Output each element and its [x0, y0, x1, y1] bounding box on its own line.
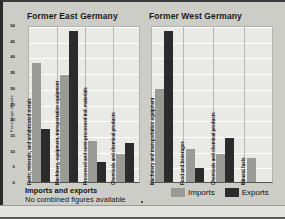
bar-imports	[247, 158, 256, 182]
bar-imports	[32, 63, 41, 182]
bar-imports	[88, 141, 97, 182]
bar-group	[32, 27, 50, 182]
chart-legend: Imports Exports	[171, 188, 269, 197]
x-axis-category-label: Chemicals and chemical products	[211, 112, 216, 185]
x-axis-category-label: Fuels, minerals, and unfabricated metals	[27, 98, 32, 185]
bar-group	[186, 27, 204, 182]
figure-caption: Imports and exports No combined figures …	[25, 186, 125, 204]
y-axis-tick-label: 5	[3, 165, 15, 169]
bar-group	[155, 27, 173, 182]
y-axis-tick-label: 30	[3, 87, 15, 91]
legend-label-exports: Exports	[242, 188, 269, 197]
y-axis-tick-label: 0	[3, 181, 15, 185]
bar-imports	[216, 154, 225, 182]
x-axis-category-label: Processed and semi-processed ind. materi…	[83, 87, 88, 185]
bar-group	[216, 27, 234, 182]
chart-figure: Former East Germany Former West Germany …	[0, 0, 285, 205]
bar-imports	[155, 89, 164, 182]
bar-exports	[195, 168, 204, 182]
bar-group	[88, 27, 106, 182]
bar-exports	[125, 143, 134, 182]
chart-title-east: Former East Germany	[27, 11, 118, 21]
legend-item-imports: Imports	[171, 188, 215, 197]
y-axis-tick-label: 10	[3, 150, 15, 154]
y-axis-tick-label: 15	[3, 134, 15, 138]
x-axis-category-label: Mineral fuels	[241, 158, 246, 185]
bar-group	[247, 27, 256, 182]
y-axis-tick-label: 25	[3, 103, 15, 107]
bar-group	[116, 27, 134, 182]
y-axis-tick-label: 20	[3, 118, 15, 122]
y-axis-tick-label: 45	[3, 40, 15, 44]
x-axis-category-label: Food and beverages	[180, 141, 185, 185]
plot-area-east: Fuels, minerals, and unfabricated metals…	[28, 26, 140, 183]
legend-label-imports: Imports	[188, 188, 215, 197]
bar-exports	[97, 162, 106, 182]
bar-exports	[69, 31, 78, 182]
x-axis-category-label: Machinery and transportation equipment	[150, 98, 155, 185]
bar-group	[60, 27, 78, 182]
bar-imports	[60, 75, 69, 182]
legend-item-exports: Exports	[225, 188, 269, 197]
bar-exports	[225, 138, 234, 182]
bottom-strip	[0, 205, 285, 219]
plot-area-west: Machinery and transportation equipmentFo…	[151, 26, 273, 183]
x-axis-category-label: Chemicals and chemical products	[111, 112, 116, 185]
bar-exports	[41, 129, 50, 182]
bar-exports	[164, 31, 173, 182]
y-axis-title: Percentage of trade	[9, 95, 14, 132]
caption-note: No combined figures available	[25, 195, 125, 204]
legend-swatch-imports	[171, 188, 185, 197]
decorative-dot	[141, 201, 143, 203]
bar-imports	[116, 154, 125, 182]
x-axis-category-label: Machinery, equipment, transportation equ…	[55, 81, 60, 185]
chart-title-west: Former West Germany	[149, 11, 242, 21]
legend-swatch-exports	[225, 188, 239, 197]
y-axis-tick-label: 40	[3, 55, 15, 59]
bar-imports	[186, 149, 195, 182]
y-axis-tick-label: 50	[3, 24, 15, 28]
y-axis-tick-label: 35	[3, 71, 15, 75]
caption-title: Imports and exports	[25, 186, 125, 195]
